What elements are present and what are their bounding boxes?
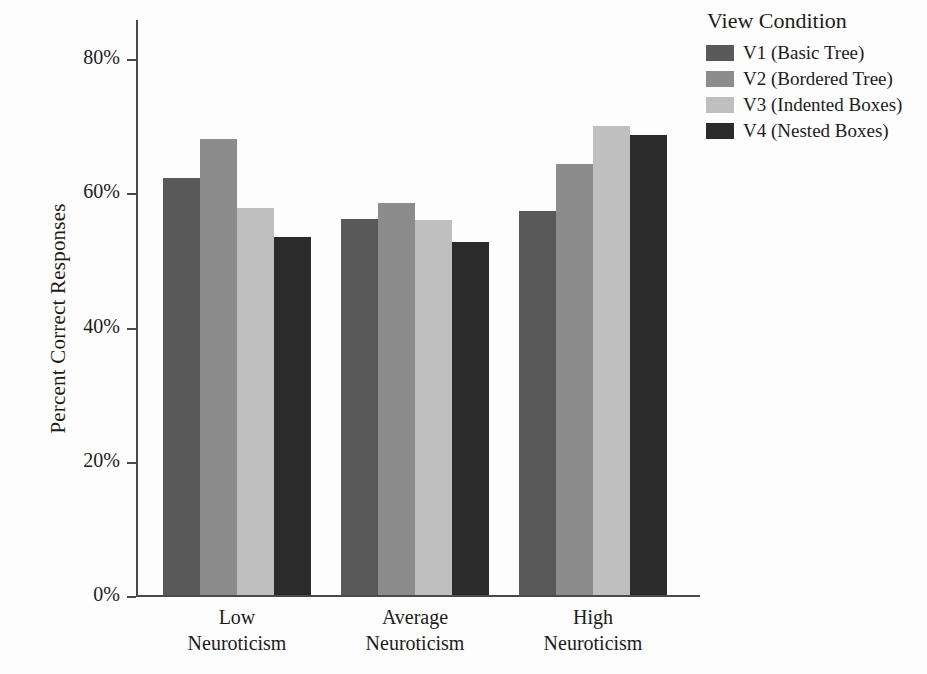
y-tick-mark [127, 59, 136, 61]
bar-group [341, 20, 489, 595]
y-axis-line [136, 20, 138, 597]
legend-title: View Condition [707, 8, 927, 34]
y-tick-label: 40% [30, 315, 120, 338]
legend-item: V3 (Indented Boxes) [706, 92, 927, 118]
bar [593, 126, 630, 595]
y-tick-mark [127, 328, 136, 330]
x-category-label-line1: High [473, 604, 713, 630]
bar [519, 211, 556, 595]
legend-color-swatch [706, 97, 734, 113]
bar [415, 220, 452, 595]
bar-group [519, 20, 667, 595]
legend-color-swatch [706, 123, 734, 139]
x-axis-line [136, 595, 700, 597]
legend-item-label: V2 (Bordered Tree) [743, 68, 893, 90]
y-tick-label: 80% [30, 46, 120, 69]
y-tick-label: 0% [30, 583, 120, 606]
plot-area: 0%20%40%60%80% [136, 20, 700, 597]
y-tick-mark [127, 462, 136, 464]
legend-item: V1 (Basic Tree) [706, 40, 927, 66]
legend-item-label: V1 (Basic Tree) [743, 42, 864, 64]
bar [378, 203, 415, 595]
x-category-label-line2: Neuroticism [473, 630, 713, 656]
legend-color-swatch [706, 71, 734, 87]
legend-color-swatch [706, 45, 734, 61]
x-category-label: HighNeuroticism [473, 604, 713, 656]
bar [274, 237, 311, 595]
bar [556, 164, 593, 595]
y-tick-mark [127, 193, 136, 195]
bar [163, 178, 200, 595]
bar [341, 219, 378, 595]
legend-item: V2 (Bordered Tree) [706, 66, 927, 92]
bar [200, 139, 237, 595]
legend: View Condition V1 (Basic Tree)V2 (Border… [706, 8, 927, 144]
bar [452, 242, 489, 595]
y-tick-label: 20% [30, 449, 120, 472]
bar-chart-figure: Percent Correct Responses 0%20%40%60%80%… [0, 0, 927, 674]
legend-item-label: V4 (Nested Boxes) [743, 120, 889, 142]
bar [237, 208, 274, 595]
bar-group [163, 20, 311, 595]
bar [630, 135, 667, 595]
legend-item: V4 (Nested Boxes) [706, 118, 927, 144]
legend-items: V1 (Basic Tree)V2 (Bordered Tree)V3 (Ind… [706, 40, 927, 144]
y-tick-mark [127, 596, 136, 598]
y-tick-label: 60% [30, 180, 120, 203]
legend-item-label: V3 (Indented Boxes) [743, 94, 902, 116]
